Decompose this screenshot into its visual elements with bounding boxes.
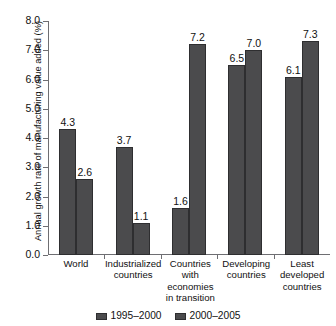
bar-value-label: 1.1 — [134, 210, 149, 222]
bar-group: 3.71.1 — [104, 21, 160, 255]
bar-column: 6.5 — [228, 21, 245, 255]
bar-pair: 1.67.2 — [161, 21, 217, 255]
bar[interactable] — [116, 147, 133, 255]
bar-value-label: 3.7 — [117, 134, 132, 146]
bar[interactable] — [245, 50, 262, 255]
bar-chart-figure: Annual growth rate of manufacturing valu… — [0, 0, 336, 326]
x-axis-category-labels: WorldIndustrialized countriesCountries w… — [48, 258, 330, 303]
bar-value-label: 6.1 — [286, 64, 301, 76]
bar-pair: 3.71.1 — [104, 21, 160, 255]
bar-column: 2.6 — [76, 21, 93, 255]
bar-value-label: 7.3 — [303, 28, 318, 40]
x-axis-category-label: Least developed countries — [274, 258, 330, 303]
bar-pair: 6.57.0 — [217, 21, 273, 255]
bar[interactable] — [59, 129, 76, 255]
chart-legend: 1995–20002000–2005 — [0, 310, 336, 322]
legend-swatch-icon — [96, 313, 107, 320]
legend-swatch-icon — [175, 313, 186, 320]
y-axis-tick-label: 1.0 — [25, 219, 40, 232]
y-axis-tick-label: 0.0 — [25, 248, 40, 261]
bar-value-label: 2.6 — [77, 166, 92, 178]
y-axis-tick: 0.0 — [43, 255, 48, 256]
bar[interactable] — [76, 179, 93, 255]
bar-column: 7.3 — [302, 21, 319, 255]
y-axis-tick-label: 6.0 — [25, 73, 40, 86]
bar-value-label: 7.2 — [190, 31, 205, 43]
bar-column: 3.7 — [116, 21, 133, 255]
bar-group: 6.57.0 — [217, 21, 273, 255]
legend-item[interactable]: 1995–2000 — [96, 310, 162, 322]
bar-pair: 6.17.3 — [274, 21, 330, 255]
x-axis-category-label: World — [48, 258, 104, 303]
bar-group: 4.32.6 — [48, 21, 104, 255]
bar-column: 7.2 — [189, 21, 206, 255]
bar-column: 4.3 — [59, 21, 76, 255]
bar-group: 1.67.2 — [161, 21, 217, 255]
y-axis-tick-label: 3.0 — [25, 160, 40, 173]
bar-value-label: 4.3 — [60, 116, 75, 128]
bar-column: 1.1 — [133, 21, 150, 255]
bar-groups: 4.32.63.71.11.67.26.57.06.17.3 — [48, 21, 330, 255]
bar-column: 7.0 — [245, 21, 262, 255]
bar-group: 6.17.3 — [274, 21, 330, 255]
x-axis-category-label: Industrialized countries — [104, 258, 163, 303]
bar[interactable] — [133, 223, 150, 255]
legend-label: 2000–2005 — [190, 310, 241, 322]
bar-value-label: 6.5 — [230, 52, 245, 64]
bar-value-label: 1.6 — [173, 195, 188, 207]
y-axis-tick-label: 5.0 — [25, 102, 40, 115]
y-axis-tick-label: 8.0 — [25, 14, 40, 27]
bar-column: 6.1 — [285, 21, 302, 255]
bar[interactable] — [285, 77, 302, 255]
bar[interactable] — [189, 44, 206, 255]
bar[interactable] — [172, 208, 189, 255]
bar[interactable] — [302, 41, 319, 255]
y-axis-tick-label: 4.0 — [25, 131, 40, 144]
plot-area: 8.07.06.05.04.03.02.01.00.0 4.32.63.71.1… — [48, 21, 330, 255]
bar-pair: 4.32.6 — [48, 21, 104, 255]
legend-item[interactable]: 2000–2005 — [175, 310, 241, 322]
bar[interactable] — [228, 65, 245, 255]
y-axis-tick-label: 2.0 — [25, 190, 40, 203]
y-axis-tick-label: 7.0 — [25, 43, 40, 56]
x-axis-category-label: Developing countries — [218, 258, 274, 303]
legend-label: 1995–2000 — [111, 310, 162, 322]
bar-column: 1.6 — [172, 21, 189, 255]
x-axis-category-label: Countries with economies in transition — [162, 258, 218, 303]
bar-value-label: 7.0 — [247, 37, 262, 49]
